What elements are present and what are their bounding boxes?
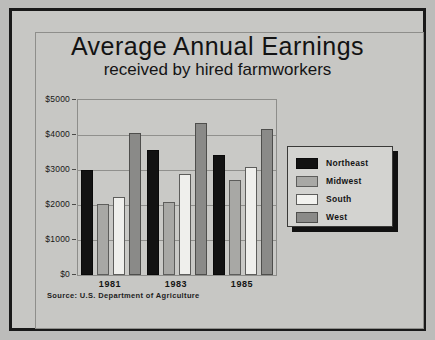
y-axis-tick-mark [72, 274, 76, 275]
legend-swatch-west [296, 212, 318, 223]
y-axis-tick-mark [72, 204, 76, 205]
bar-midwest-1983 [163, 202, 175, 276]
source-note: Source: U.S. Department of Agriculture [47, 291, 200, 300]
legend-item-label: Midwest [326, 176, 362, 186]
x-axis-tick-label: 1983 [143, 279, 209, 289]
y-axis-tick-mark [72, 134, 76, 135]
bar-northeast-1983 [147, 150, 159, 275]
y-axis-tick-mark [72, 99, 76, 100]
legend-item-label: Northeast [326, 158, 368, 168]
legend-swatch-south [296, 194, 318, 205]
x-axis-tick-label: 1985 [209, 279, 275, 289]
chart-legend: NortheastMidwestSouthWest [287, 146, 393, 227]
x-axis-tick-label: 1981 [77, 279, 143, 289]
legend-item-west: West [296, 208, 392, 226]
y-axis-tick-label: $2000 [45, 199, 70, 209]
plot-area [77, 99, 277, 276]
legend-item-label: South [326, 194, 352, 204]
y-axis-tick-mark [72, 169, 76, 170]
legend-item-south: South [296, 190, 392, 208]
bar-midwest-1985 [229, 180, 241, 275]
legend-swatch-northeast [296, 158, 318, 169]
scanned-page: Average Annual Earnings received by hire… [0, 0, 435, 340]
bar-northeast-1981 [81, 170, 93, 275]
y-axis-tick-label: $3000 [45, 164, 70, 174]
bar-west-1981 [129, 133, 141, 275]
bar-west-1983 [195, 123, 207, 275]
legend-item-northeast: Northeast [296, 154, 392, 172]
y-axis-tick-label: $4000 [45, 129, 70, 139]
bar-west-1985 [261, 129, 273, 275]
y-axis-tick-label: $0 [60, 269, 70, 279]
bar-south-1985 [245, 167, 257, 275]
legend-item-label: West [326, 212, 347, 222]
legend-swatch-midwest [296, 176, 318, 187]
bar-northeast-1985 [213, 155, 225, 275]
legend-item-midwest: Midwest [296, 172, 392, 190]
gridline [78, 135, 276, 136]
bar-south-1983 [179, 174, 191, 276]
bar-south-1981 [113, 197, 125, 275]
y-axis-tick-label: $1000 [45, 234, 70, 244]
y-axis-tick-label: $5000 [45, 94, 70, 104]
y-axis-tick-mark [72, 239, 76, 240]
bar-midwest-1981 [97, 204, 109, 275]
